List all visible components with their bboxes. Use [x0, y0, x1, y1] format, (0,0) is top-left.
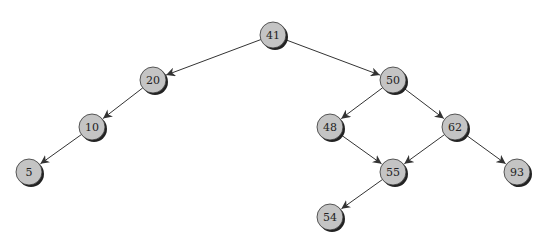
node-label: 41 [266, 29, 280, 42]
node-label: 10 [85, 121, 99, 134]
edge-n10-n5 [40, 135, 81, 164]
edges-layer [40, 40, 505, 209]
edge-n41-n20 [166, 40, 261, 76]
edge-n48-n55 [341, 135, 382, 164]
node-label: 93 [510, 166, 524, 179]
edge-n62-n55 [404, 135, 444, 164]
tree-node: 20 [140, 67, 168, 95]
tree-node: 5 [16, 159, 44, 187]
tree-node: 48 [317, 114, 345, 142]
tree-node: 41 [260, 22, 288, 50]
node-label: 50 [386, 74, 400, 87]
edge-n62-n93 [466, 135, 506, 164]
edge-n55-n54 [341, 180, 382, 209]
node-label: 54 [323, 211, 337, 224]
tree-node: 93 [504, 159, 532, 187]
tree-node: 50 [380, 67, 408, 95]
nodes-layer: 4120501048625559354 [16, 22, 532, 232]
edge-n50-n48 [341, 88, 382, 119]
edge-n41-n50 [285, 40, 380, 76]
edge-n20-n10 [103, 88, 143, 119]
tree-node: 54 [317, 204, 345, 232]
tree-node: 55 [380, 159, 408, 187]
node-label: 55 [386, 166, 400, 179]
node-label: 62 [448, 121, 462, 134]
tree-node: 62 [442, 114, 470, 142]
node-label: 20 [146, 74, 160, 87]
node-label: 48 [323, 121, 337, 134]
node-label: 5 [26, 166, 33, 179]
edge-n50-n62 [403, 88, 443, 119]
tree-node: 10 [79, 114, 107, 142]
tree-diagram: 4120501048625559354 [0, 0, 547, 243]
